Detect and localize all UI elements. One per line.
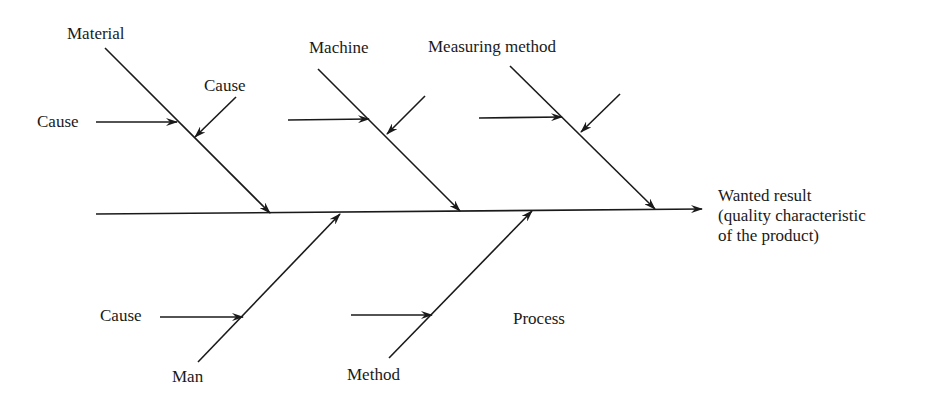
category-label-man: Man [172,367,203,386]
measuring-method-cause-arrow-left [479,117,562,118]
material-cause-arrow-top [195,97,236,137]
category-label-machine: Machine [309,38,368,57]
spine-arrow [96,209,702,214]
category-label-material: Material [67,24,125,43]
machine-branch [318,69,460,211]
machine-cause-arrow-top [387,96,425,134]
effect-line-2: (quality characteristic [718,206,866,226]
measuring-method-cause-arrow-top [581,94,620,132]
process-label: Process [513,309,565,328]
material-branch [105,48,270,213]
method-branch [389,211,532,358]
effect-label: Wanted result (quality characteristic of… [718,186,866,246]
man-branch [198,214,340,362]
cause-label-material-left: Cause [37,112,79,131]
machine-cause-arrow-left [288,119,369,120]
category-label-measuring-method: Measuring method [428,37,556,56]
effect-line-1: Wanted result [718,186,866,206]
effect-line-3: of the product) [718,226,866,246]
cause-label-man-left: Cause [100,306,142,325]
measuring-method-branch [510,66,655,209]
cause-label-material-top: Cause [204,76,246,95]
category-label-method: Method [347,365,400,384]
